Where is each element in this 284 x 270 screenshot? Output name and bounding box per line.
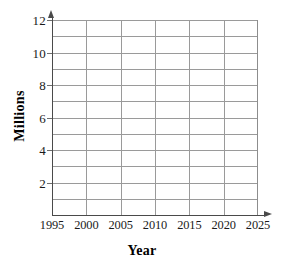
gridline-vertical [189,20,190,215]
y-axis-tick [47,85,52,86]
gridline-vertical [155,20,156,215]
y-axis-line [52,18,53,216]
y-axis-tick-label: 12 [2,14,46,27]
y-axis-tick [47,53,52,54]
x-axis-tick-label: 2025 [235,219,281,231]
y-axis-tick-label: 10 [2,46,46,59]
gridline-vertical-right-edge [257,20,258,215]
plot-area [52,20,258,215]
x-axis-line [52,215,265,216]
y-axis-tick [47,183,52,184]
arrow-up-icon [48,10,54,18]
gridline-vertical [224,20,225,215]
chart-figure: 12 10 8 6 4 2 1995 2000 2005 2010 2015 2… [0,0,284,270]
y-axis-tick [47,118,52,119]
y-axis-tick [47,20,52,21]
y-axis-title: Millions [12,66,28,166]
gridline-vertical [121,20,122,215]
y-axis-tick-label: 2 [2,176,46,189]
y-axis-tick [47,150,52,151]
gridline-vertical [86,20,87,215]
arrow-right-icon [264,211,272,217]
x-axis-title: Year [0,243,284,259]
